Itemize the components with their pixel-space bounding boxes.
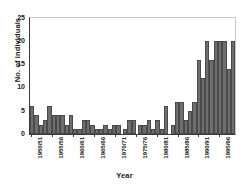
- y-tick-10: 10: [9, 83, 25, 90]
- x-axis-title: Year: [0, 171, 249, 180]
- x-tick-label: 1965/66: [98, 137, 107, 171]
- y-tick-0: 0: [9, 130, 25, 137]
- x-tick-label: 1970/71: [119, 137, 128, 171]
- x-tick-label: 1975/76: [140, 137, 149, 171]
- y-axis-tick-labels: 25 20 15 10 5 0: [9, 0, 25, 187]
- x-tick-label: 1990/91: [202, 137, 211, 171]
- bar-series: [30, 18, 235, 134]
- y-tick-5: 5: [9, 107, 25, 114]
- x-tick-label: 1960/61: [77, 137, 86, 171]
- x-tick-label: 1985/86: [182, 137, 191, 171]
- bar: [231, 41, 235, 134]
- x-tick-label: 1955/56: [56, 137, 65, 171]
- bar: [116, 125, 120, 134]
- x-axis-tick-labels: 1950/511955/561960/611965/661970/711975/…: [29, 137, 236, 171]
- y-tick-15: 15: [9, 60, 25, 67]
- bar-chart-figure: No. of individuals 25 20 15 10 5 0 1950/…: [0, 0, 249, 187]
- y-tick-25: 25: [9, 14, 25, 21]
- y-tick-20: 20: [9, 37, 25, 44]
- bar: [132, 120, 136, 134]
- x-tick-label: 1950/51: [35, 137, 44, 171]
- x-tick-label: 1995/96: [223, 137, 232, 171]
- x-tick-label: 1980/81: [161, 137, 170, 171]
- bar: [164, 106, 168, 134]
- plot-area: [29, 17, 236, 135]
